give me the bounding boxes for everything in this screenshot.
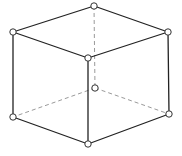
edge-top_back-top_right: [94, 6, 168, 32]
vertex-top-back: [91, 3, 97, 9]
vertex-bottom-left: [10, 114, 16, 120]
vertex-top-right: [165, 29, 171, 35]
edge-bottom_left-bottom_front: [13, 117, 88, 144]
cube-diagram: [0, 0, 182, 156]
hidden-edge-top_back-bottom_back: [94, 6, 95, 88]
edge-top_right-top_front: [88, 32, 168, 58]
vertex-top-left: [10, 29, 16, 35]
vertex-bottom-right: [166, 111, 172, 117]
edge-bottom_right-bottom_front: [88, 114, 169, 144]
hidden-edges: [13, 6, 169, 117]
vertex-bottom-back: [92, 85, 98, 91]
edge-top_back-top_left: [13, 6, 94, 32]
vertex-bottom-front: [85, 141, 91, 147]
hidden-edge-bottom_back-bottom_left: [13, 88, 95, 117]
edge-top_left-top_front: [13, 32, 88, 58]
visible-edges: [13, 6, 169, 144]
vertex-top-front: [85, 55, 91, 61]
edge-top_right-bottom_right: [168, 32, 169, 114]
hidden-edge-bottom_back-bottom_right: [95, 88, 169, 114]
